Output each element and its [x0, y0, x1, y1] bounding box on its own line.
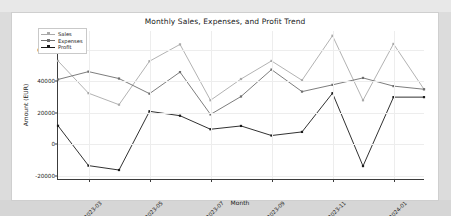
x-gridline	[394, 31, 395, 179]
x-gridline	[272, 31, 273, 179]
marker-expenses	[423, 88, 425, 90]
marker-sales	[362, 99, 364, 101]
x-tick-mark	[89, 179, 90, 182]
legend-marker-expenses	[41, 38, 55, 44]
marker-expenses	[118, 77, 120, 79]
marker-sales	[57, 60, 59, 62]
marker-expenses	[240, 95, 242, 97]
x-gridline	[333, 31, 334, 179]
y-tick-label: 40000	[37, 78, 55, 84]
line-expenses	[58, 70, 424, 115]
line-profit	[58, 93, 424, 170]
y-tick-mark	[55, 81, 58, 82]
x-tick-mark	[211, 179, 212, 182]
y-tick-mark	[55, 175, 58, 176]
y-gridline	[58, 113, 424, 114]
legend-item-profit: Profit	[41, 44, 83, 51]
x-gridline	[211, 31, 212, 179]
x-gridline	[150, 31, 151, 179]
plot-area: 6000040000200000-200002023-032023-052023…	[57, 31, 424, 180]
x-tick-mark	[272, 179, 273, 182]
y-gridline	[58, 81, 424, 82]
marker-sales	[240, 78, 242, 80]
x-tick-mark	[394, 179, 395, 182]
marker-sales	[118, 104, 120, 106]
x-axis-label: Month	[57, 199, 423, 206]
marker-expenses	[362, 77, 364, 79]
y-tick-label: 0	[51, 141, 55, 147]
y-gridline	[58, 176, 424, 177]
legend-marker-profit	[41, 44, 55, 50]
marker-profit	[57, 125, 59, 127]
marker-profit	[423, 96, 425, 98]
line-sales	[58, 36, 424, 105]
y-tick-mark	[55, 144, 58, 145]
desktop-background-top	[0, 0, 451, 12]
marker-profit	[179, 115, 181, 117]
x-gridline	[89, 31, 90, 179]
screenshot-root: Monthly Sales, Expenses, and Profit Tren…	[0, 0, 451, 216]
chart-title: Monthly Sales, Expenses, and Profit Tren…	[12, 17, 438, 26]
marker-profit	[301, 131, 303, 133]
y-tick-mark	[55, 112, 58, 113]
marker-profit	[118, 169, 120, 171]
y-tick-label: -20000	[35, 173, 55, 179]
x-tick-mark	[150, 179, 151, 182]
y-gridline	[58, 144, 424, 145]
chart-figure: Monthly Sales, Expenses, and Profit Tren…	[12, 13, 438, 200]
x-tick-mark	[333, 179, 334, 182]
marker-profit	[240, 125, 242, 127]
marker-profit	[362, 165, 364, 167]
chart-legend: Sales Expenses Profit	[38, 28, 87, 54]
legend-label-profit: Profit	[58, 44, 72, 51]
y-gridline	[58, 50, 424, 51]
series-lines	[58, 31, 424, 179]
marker-expenses	[179, 71, 181, 73]
y-axis-label: Amount (EUR)	[22, 84, 29, 127]
marker-sales	[179, 43, 181, 45]
legend-marker-sales	[41, 31, 55, 37]
y-tick-label: 20000	[37, 110, 55, 116]
marker-expenses	[301, 91, 303, 93]
